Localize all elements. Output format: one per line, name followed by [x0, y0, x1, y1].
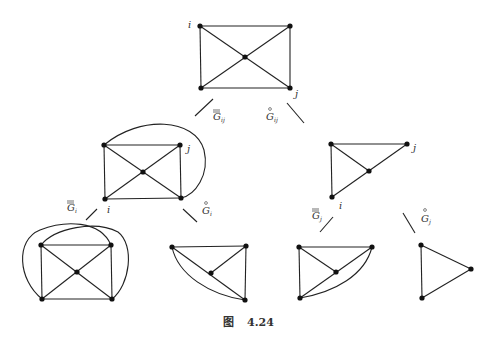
branch-line: [86, 209, 97, 220]
svg-text:ij: ij: [274, 116, 278, 124]
vertex-label-i: i: [107, 204, 110, 215]
figure-caption: 图 4.24: [223, 316, 274, 329]
vertex-label-i: i: [188, 19, 191, 30]
branch-label-contract-i: G i: [67, 201, 77, 214]
branch-line: [183, 209, 197, 222]
mid-left-graph: j i: [101, 124, 205, 215]
svg-text:G: G: [202, 205, 210, 216]
vertex-label-i: i: [339, 200, 342, 211]
svg-text:G: G: [213, 111, 221, 122]
svg-text:ij: ij: [221, 116, 225, 124]
mid-right-graph: j i: [328, 141, 416, 211]
graph-reduction-diagram: i j G ij G ij j i: [0, 0, 495, 346]
svg-text:G: G: [312, 210, 320, 221]
bottom-graph-1: [23, 224, 129, 302]
svg-text:4.24: 4.24: [247, 316, 274, 329]
branch-label-delete-j: G j: [421, 209, 431, 226]
branch-label-contract-ij: G ij: [213, 110, 225, 124]
svg-text:i: i: [210, 210, 212, 217]
branch-label-delete-ij: G ij: [266, 108, 278, 124]
branch-line: [320, 217, 333, 232]
branch-line: [287, 103, 304, 123]
bottom-graph-4: [418, 242, 473, 300]
bottom-graph-2: [169, 243, 248, 302]
vertex-label-j: j: [411, 142, 416, 153]
branch-line: [403, 213, 415, 233]
svg-text:图: 图: [223, 316, 234, 329]
svg-text:G: G: [266, 111, 274, 122]
branch-line: [195, 99, 213, 116]
svg-text:i: i: [75, 207, 77, 214]
svg-text:G: G: [67, 202, 75, 213]
top-graph: i j: [188, 19, 298, 99]
bottom-graph-3: [296, 244, 374, 300]
vertex-label-j: j: [293, 88, 298, 99]
vertex-label-j: j: [185, 143, 190, 154]
svg-text:G: G: [421, 213, 429, 224]
branch-label-contract-j: G j: [312, 209, 322, 223]
branch-label-delete-i: G i: [202, 202, 212, 217]
